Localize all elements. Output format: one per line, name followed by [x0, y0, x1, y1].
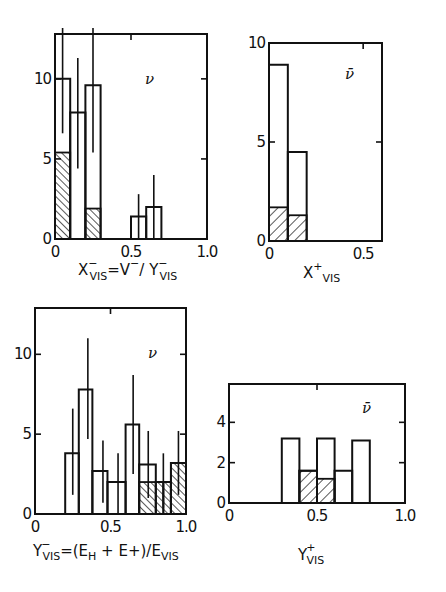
x-tick-label: 0	[51, 243, 60, 261]
hatched-bar	[269, 207, 288, 241]
hatched-bar	[299, 471, 317, 503]
y-tick-label: 5	[256, 133, 265, 151]
nu-bar-annotation: ν̄	[362, 399, 371, 417]
histogram-bar	[92, 471, 107, 514]
hatched-bar	[288, 215, 307, 241]
x-axis-label: X+VIS	[303, 260, 340, 285]
hatched-bar	[317, 479, 335, 503]
histogram-bar	[107, 482, 125, 514]
figure: ν X−VIS=V−/ Y−VIS 051000.51.0 ν̄ X+VIS 0…	[0, 0, 446, 592]
x-tick-label: 0.5	[100, 518, 121, 536]
x-tick-label: 1.0	[176, 518, 197, 536]
nu-annotation: ν	[148, 344, 157, 362]
panel-x-vis-minus: ν X−VIS=V−/ Y−VIS 051000.51.0	[34, 28, 218, 283]
x-tick-label: 0	[31, 518, 40, 536]
nu-bar-annotation: ν̄	[345, 65, 354, 83]
hatched-bar	[163, 482, 171, 514]
y-tick-label: 10	[34, 70, 52, 88]
y-tick-label: 10	[248, 34, 266, 52]
x-tick-label: 1.0	[197, 243, 218, 261]
y-tick-label: 4	[216, 413, 225, 431]
nu-annotation: ν	[145, 70, 154, 88]
panel-x-vis-plus: ν̄ X+VIS 051000.5	[248, 34, 382, 285]
x-tick-label: 0.5	[353, 245, 374, 263]
histogram-bar	[352, 440, 370, 503]
y-tick-label: 5	[42, 150, 51, 168]
x-tick-label: 1.0	[395, 507, 416, 525]
x-tick-label: 0.5	[307, 507, 328, 525]
panel-y-vis-plus: ν̄ Y+VIS 02400.51.0	[216, 384, 415, 567]
x-tick-label: 0	[225, 507, 234, 525]
histogram-bar	[79, 389, 93, 514]
hatched-bar	[85, 209, 100, 239]
y-tick-label: 5	[22, 425, 31, 443]
x-axis-label: Y+VIS	[297, 541, 324, 567]
y-tick-label: 10	[14, 345, 32, 363]
y-tick-label: 2	[216, 454, 225, 472]
hatched-bar	[55, 153, 70, 239]
x-tick-label: 0.5	[121, 243, 142, 261]
panel-y-vis-minus: ν Y−VIS=(EH + E+)/EVIS 051000.51.0	[14, 308, 197, 563]
x-tick-label: 0	[265, 245, 274, 263]
x-axis-label: Y−VIS=(EH + E+)/EVIS	[32, 538, 179, 563]
hatched-bar	[139, 482, 163, 514]
histogram-bar	[335, 471, 353, 503]
histogram-bar	[282, 438, 300, 503]
